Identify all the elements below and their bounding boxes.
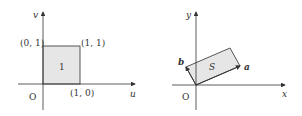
origin-label: O <box>29 92 36 102</box>
region-s-label: S <box>209 62 215 72</box>
left-panel: v u O 1 (0, 1) (1, 1) (1, 0) <box>18 10 136 110</box>
y-axis-label: y <box>185 10 192 20</box>
right-panel: y x O S a b <box>172 10 287 110</box>
vector-a-label: a <box>244 62 250 72</box>
point-1-0-label: (1, 0) <box>70 88 94 98</box>
vector-b-label: b <box>178 57 184 67</box>
point-0-1-label: (0, 1) <box>20 38 44 48</box>
x-axis-label: x <box>282 89 287 99</box>
point-1-1-label: (1, 1) <box>81 38 105 48</box>
square-area-label: 1 <box>59 62 65 72</box>
v-axis-label: v <box>33 10 38 20</box>
u-axis-label: u <box>130 89 136 99</box>
origin-label: O <box>182 92 189 102</box>
diagram-canvas: v u O 1 (0, 1) (1, 1) (1, 0) y x O S a b <box>0 0 302 116</box>
